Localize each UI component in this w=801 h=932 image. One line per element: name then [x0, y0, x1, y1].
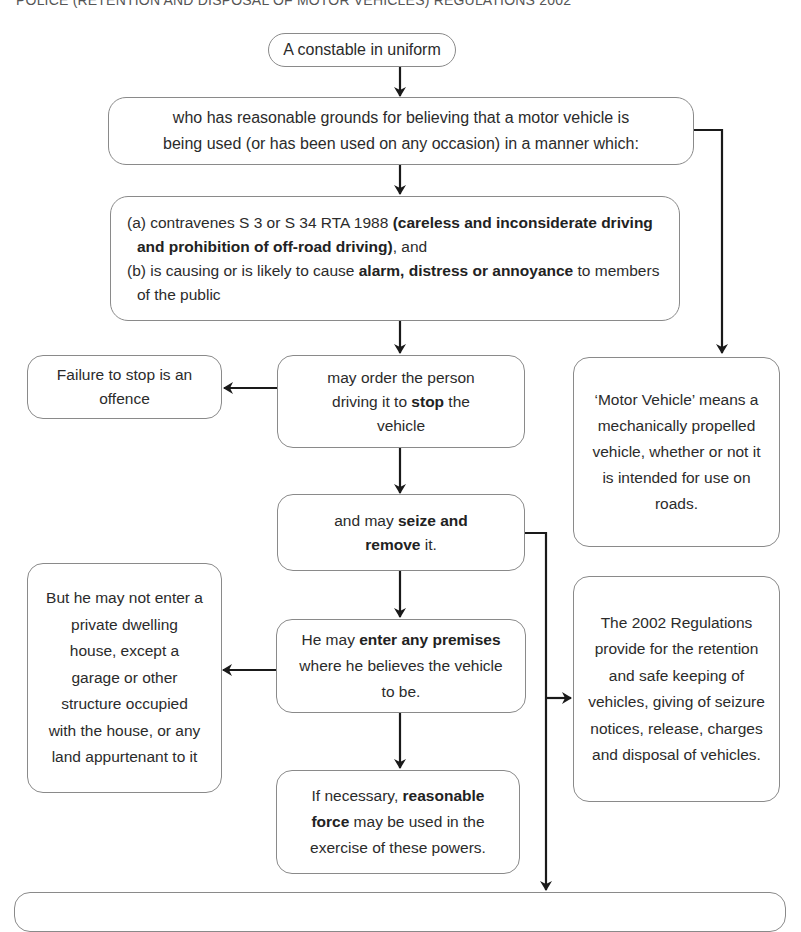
- node-2002-regulations: The 2002 Regulations provide for the ret…: [573, 576, 780, 802]
- node-enter-premises: He may enter any premises where he belie…: [276, 619, 526, 713]
- node-reasonable-grounds: who has reasonable grounds for believing…: [108, 97, 694, 165]
- constable-text: A constable in uniform: [283, 38, 440, 62]
- node-bottom-cutoff: [14, 892, 786, 932]
- node-reasonable-force: If necessary, reasonable force may be us…: [276, 770, 520, 874]
- condition-b: (b) is causing or is likely to cause ala…: [121, 259, 669, 307]
- not-dwelling-text: But he may not enter a private dwelling …: [46, 585, 203, 771]
- condition-a: (a) contravenes S 3 or S 34 RTA 1988 (ca…: [121, 211, 669, 259]
- node-order-stop: may order the person driving it to stop …: [277, 355, 525, 448]
- node-conditions: (a) contravenes S 3 or S 34 RTA 1988 (ca…: [110, 196, 680, 321]
- seize-text: and may seize and remove it.: [318, 509, 484, 557]
- stop-text: may order the person driving it to stop …: [308, 366, 494, 438]
- failure-text: Failure to stop is an offence: [50, 363, 199, 411]
- node-constable: A constable in uniform: [268, 33, 456, 67]
- regulations-text: The 2002 Regulations provide for the ret…: [582, 610, 771, 769]
- node-motor-vehicle-definition: ‘Motor Vehicle’ means a mechanically pro…: [573, 357, 780, 547]
- grounds-line-1: who has reasonable grounds for believing…: [163, 105, 639, 131]
- node-failure-offence: Failure to stop is an offence: [27, 355, 222, 419]
- node-seize-remove: and may seize and remove it.: [277, 494, 525, 571]
- node-not-dwelling-house: But he may not enter a private dwelling …: [27, 563, 222, 793]
- motor-vehicle-text: ‘Motor Vehicle’ means a mechanically pro…: [592, 387, 761, 517]
- force-text: If necessary, reasonable force may be us…: [293, 783, 503, 861]
- grounds-line-2: being used (or has been used on any occa…: [163, 131, 639, 157]
- enter-text: He may enter any premises where he belie…: [291, 627, 511, 705]
